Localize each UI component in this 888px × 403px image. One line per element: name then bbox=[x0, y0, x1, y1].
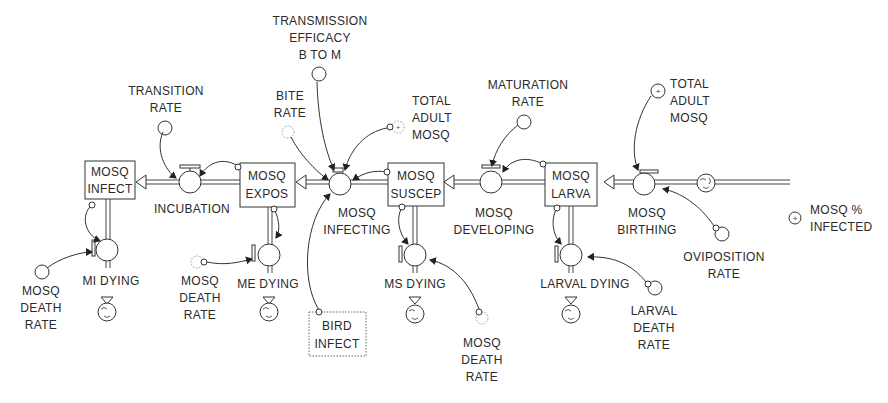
svg-text:RATE: RATE bbox=[708, 267, 740, 281]
mosq-birthing-label-1: MOSQ bbox=[628, 206, 666, 220]
svg-text:MOSQ: MOSQ bbox=[463, 336, 501, 350]
valve-handle-icon bbox=[333, 168, 343, 172]
stock-mosq-infect[interactable]: MOSQ INFECT bbox=[85, 161, 135, 199]
stock-flow-diagram: MOSQ INFECT MOSQ EXPOS MOSQ SUSCEP MOSQ … bbox=[0, 0, 888, 403]
converter-mosq-pct-infected[interactable]: + MOSQ % INFECTED bbox=[789, 203, 872, 234]
svg-text:RATE: RATE bbox=[274, 106, 306, 120]
svg-text:MOSQ: MOSQ bbox=[91, 165, 129, 179]
svg-text:TRANSITION: TRANSITION bbox=[128, 84, 204, 98]
svg-text:TOTAL: TOTAL bbox=[412, 94, 451, 108]
svg-text:+: + bbox=[793, 214, 798, 223]
svg-text:MOSQ: MOSQ bbox=[181, 274, 219, 288]
svg-text:DEATH: DEATH bbox=[20, 301, 61, 315]
mi-dying-label: MI DYING bbox=[82, 274, 139, 288]
mosq-birthing-valve[interactable] bbox=[633, 173, 655, 195]
svg-text:RATE: RATE bbox=[466, 370, 498, 384]
ms-dying-flow[interactable] bbox=[399, 206, 426, 323]
incubation-label: INCUBATION bbox=[154, 202, 230, 216]
flow-arrow-icon bbox=[296, 175, 306, 189]
valve-handle-icon bbox=[399, 246, 402, 262]
converter-mosq-death-rate-1[interactable]: MOSQ DEATH RATE bbox=[20, 265, 61, 332]
valve-handle-icon bbox=[92, 240, 95, 256]
flow-arrow-icon bbox=[565, 297, 577, 304]
flow-arrow-icon bbox=[136, 175, 146, 189]
converter-bite-rate-ghost[interactable]: BITE RATE bbox=[274, 89, 306, 138]
svg-text:EFFICACY: EFFICACY bbox=[289, 31, 351, 45]
incubation-flow[interactable] bbox=[136, 165, 240, 193]
svg-text:OVIPOSITION: OVIPOSITION bbox=[683, 250, 764, 264]
mosq-developing-label-2: DEVELOPING bbox=[453, 223, 534, 237]
mi-dying-flow[interactable] bbox=[92, 199, 118, 321]
converter-larval-death-rate[interactable]: LARVAL DEATH RATE bbox=[631, 281, 678, 352]
svg-text:TRANSMISSION: TRANSMISSION bbox=[273, 14, 368, 28]
svg-text:ADULT: ADULT bbox=[670, 94, 710, 108]
svg-text:MOSQ %: MOSQ % bbox=[810, 203, 863, 217]
flow-arrow-icon bbox=[444, 175, 454, 189]
svg-text:MOSQ: MOSQ bbox=[670, 111, 708, 125]
stock-mosq-larva[interactable]: MOSQ LARVA bbox=[545, 163, 597, 206]
svg-text:TOTAL: TOTAL bbox=[670, 77, 709, 91]
converter-maturation-rate[interactable]: MATURATION RATE bbox=[488, 78, 569, 129]
larval-dying-label: LARVAL DYING bbox=[540, 277, 629, 291]
incubation-valve[interactable] bbox=[179, 171, 201, 193]
stock-mosq-suscep[interactable]: MOSQ SUSCEP bbox=[388, 163, 444, 206]
cloud-sink-icon bbox=[260, 303, 278, 321]
converter-transition-rate[interactable]: TRANSITION RATE bbox=[128, 84, 204, 135]
svg-text:MOSQ: MOSQ bbox=[248, 169, 286, 183]
flow-arrow-icon bbox=[604, 175, 614, 189]
me-dying-valve[interactable] bbox=[258, 244, 280, 266]
cloud-sink-icon bbox=[406, 305, 424, 323]
svg-text:LARVAL: LARVAL bbox=[631, 304, 678, 318]
mi-dying-valve[interactable] bbox=[96, 239, 118, 261]
svg-text:RATE: RATE bbox=[25, 318, 57, 332]
mosq-infecting-valve[interactable] bbox=[329, 173, 351, 195]
mosq-birthing-label-2: BIRTHING bbox=[617, 223, 677, 237]
svg-text:B TO M: B TO M bbox=[299, 48, 342, 62]
svg-text:BITE: BITE bbox=[276, 89, 304, 103]
cloud-source-icon bbox=[697, 174, 715, 192]
svg-text:BIRD: BIRD bbox=[322, 319, 352, 333]
ms-dying-valve[interactable] bbox=[404, 244, 426, 266]
mosq-developing-flow[interactable] bbox=[444, 165, 545, 193]
valve-handle-icon bbox=[180, 165, 200, 168]
svg-text:LARVA: LARVA bbox=[551, 187, 591, 201]
cloud-sink-icon bbox=[98, 303, 116, 321]
larval-dying-flow[interactable] bbox=[555, 206, 582, 323]
svg-text:MATURATION: MATURATION bbox=[488, 78, 569, 92]
svg-text:DEATH: DEATH bbox=[633, 321, 674, 335]
stock-mosq-expos[interactable]: MOSQ EXPOS bbox=[240, 163, 295, 207]
svg-text:INFECT: INFECT bbox=[87, 182, 132, 196]
svg-text:RATE: RATE bbox=[150, 101, 182, 115]
mosq-developing-valve[interactable] bbox=[480, 171, 502, 193]
svg-text:MOSQ: MOSQ bbox=[412, 128, 450, 142]
valve-handle-icon bbox=[252, 245, 255, 261]
ms-dying-label: MS DYING bbox=[384, 277, 446, 291]
valve-handle-icon bbox=[555, 246, 558, 262]
svg-text:RATE: RATE bbox=[184, 308, 216, 322]
converter-mosq-death-rate-3-ghost[interactable]: MOSQ DEATH RATE bbox=[461, 309, 502, 384]
converter-total-adult-mosq[interactable]: + TOTAL ADULT MOSQ bbox=[651, 77, 710, 125]
converter-mosq-death-rate-2-ghost[interactable]: MOSQ DEATH RATE bbox=[179, 256, 220, 322]
cloud-sink-icon bbox=[562, 305, 580, 323]
larval-dying-valve[interactable] bbox=[560, 244, 582, 266]
svg-text:SUSCEP: SUSCEP bbox=[390, 187, 441, 201]
svg-text:ADULT: ADULT bbox=[412, 111, 452, 125]
mosq-birthing-flow[interactable] bbox=[604, 170, 790, 195]
me-dying-flow[interactable] bbox=[252, 207, 280, 321]
converter-transmission-efficacy[interactable]: TRANSMISSION EFFICACY B TO M bbox=[273, 14, 368, 81]
me-dying-label: ME DYING bbox=[237, 277, 299, 291]
svg-text:MOSQ: MOSQ bbox=[22, 284, 60, 298]
stock-bird-infect-ghost[interactable]: BIRD INFECT bbox=[309, 312, 366, 356]
converter-total-adult-mosq-ghost[interactable]: + TOTAL ADULT MOSQ bbox=[387, 94, 452, 142]
converter-oviposition-rate[interactable]: OVIPOSITION RATE bbox=[683, 225, 764, 281]
svg-text:DEATH: DEATH bbox=[179, 291, 220, 305]
svg-text:RATE: RATE bbox=[512, 95, 544, 109]
svg-text:INFECT: INFECT bbox=[314, 337, 359, 351]
svg-text:INFECTED: INFECTED bbox=[810, 220, 872, 234]
mosq-infecting-label-1: MOSQ bbox=[338, 206, 376, 220]
flow-arrow-icon bbox=[409, 297, 421, 304]
valve-handle-icon bbox=[482, 165, 500, 168]
svg-text:EXPOS: EXPOS bbox=[246, 187, 289, 201]
mosq-infecting-label-2: INFECTING bbox=[323, 223, 390, 237]
svg-text:DEATH: DEATH bbox=[461, 353, 502, 367]
